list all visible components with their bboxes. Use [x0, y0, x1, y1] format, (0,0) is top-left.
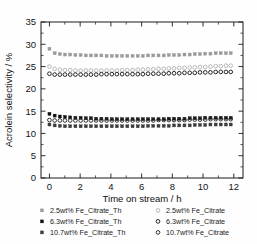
x-tick-label: 0 — [47, 181, 52, 192]
data-point — [94, 73, 98, 77]
data-point — [162, 124, 165, 127]
data-points-layer — [48, 47, 233, 128]
y-tick-label: 30 — [25, 39, 36, 50]
data-point — [229, 123, 232, 126]
data-point — [219, 70, 223, 74]
data-point — [209, 52, 212, 55]
series-2 — [48, 70, 233, 76]
y-tick-label: 15 — [25, 106, 36, 117]
plot-frame — [41, 22, 243, 178]
data-point — [141, 68, 145, 72]
data-point — [120, 68, 124, 72]
data-point — [105, 125, 108, 128]
data-point — [79, 69, 83, 73]
series-5 — [48, 123, 232, 128]
data-point — [74, 73, 78, 77]
data-point — [63, 73, 67, 77]
data-point — [100, 125, 103, 128]
chart-figure: 05101520253035024681012Time on stream / … — [0, 0, 257, 244]
data-point — [115, 125, 118, 128]
data-point — [121, 125, 124, 128]
data-point — [89, 125, 92, 128]
data-point — [84, 54, 87, 57]
data-point — [204, 52, 207, 55]
data-point — [68, 119, 72, 123]
data-point — [131, 68, 135, 72]
legend-entry: 6.3wt% Fe_Citrate — [156, 217, 225, 226]
data-point — [79, 53, 82, 56]
data-point — [58, 119, 62, 123]
data-point — [203, 65, 207, 69]
data-point — [115, 54, 118, 57]
data-point — [95, 125, 98, 128]
data-point — [209, 123, 212, 126]
x-axis-title: Time on stream / h — [103, 193, 182, 204]
data-point — [203, 71, 207, 75]
data-point — [146, 67, 150, 71]
data-point — [193, 123, 196, 126]
data-point — [84, 125, 87, 128]
data-point — [74, 69, 78, 73]
data-point — [209, 65, 213, 69]
data-point — [214, 64, 218, 68]
data-point — [131, 54, 134, 57]
legend-marker-open-circle — [156, 220, 160, 224]
data-point — [63, 125, 66, 128]
data-point — [224, 52, 227, 55]
data-point — [121, 54, 124, 57]
data-point — [219, 64, 223, 68]
data-point — [58, 73, 62, 77]
data-point — [48, 123, 51, 126]
x-tick-label: 4 — [108, 181, 113, 192]
data-point — [131, 125, 134, 128]
data-point — [162, 67, 166, 71]
data-point — [172, 67, 176, 71]
series-0 — [48, 47, 232, 57]
legend-entry: 2.5wt% Fe_Citrate — [156, 206, 225, 215]
data-point — [141, 72, 145, 76]
data-point — [173, 53, 176, 56]
data-point — [53, 67, 57, 71]
data-point — [224, 70, 228, 74]
data-point — [63, 119, 67, 123]
y-tick-label: 35 — [25, 16, 36, 27]
y-tick-label: 5 — [31, 150, 36, 161]
y-axis-title: Acrolein selectivity / % — [3, 52, 14, 147]
data-point — [229, 70, 233, 74]
data-point — [79, 73, 83, 77]
data-point — [79, 125, 82, 128]
data-point — [48, 47, 51, 50]
data-point — [219, 123, 222, 126]
data-point — [214, 52, 217, 55]
data-point — [120, 72, 124, 76]
series-1 — [48, 64, 233, 73]
x-tick-label: 8 — [170, 181, 175, 192]
data-point — [136, 68, 140, 72]
data-point — [157, 67, 161, 71]
series-3 — [48, 112, 232, 120]
data-point — [125, 72, 129, 76]
data-point — [157, 54, 160, 57]
data-point — [152, 54, 155, 57]
legend-marker-filled-square — [41, 209, 44, 212]
data-point — [105, 54, 108, 57]
axes-layer — [41, 22, 243, 178]
data-point — [198, 53, 201, 56]
data-point — [188, 66, 192, 70]
data-point — [147, 124, 150, 127]
data-point — [188, 53, 191, 56]
data-point — [89, 54, 92, 57]
data-point — [198, 71, 202, 75]
data-point — [53, 52, 56, 55]
data-point — [209, 71, 213, 75]
data-point — [63, 53, 66, 56]
x-tick-label: 12 — [228, 181, 239, 192]
data-point — [63, 115, 66, 118]
data-point — [146, 72, 150, 76]
data-point — [147, 54, 150, 57]
data-point — [167, 67, 171, 71]
data-point — [157, 72, 161, 76]
data-point — [204, 123, 207, 126]
data-point — [48, 65, 52, 69]
data-point — [172, 71, 176, 75]
